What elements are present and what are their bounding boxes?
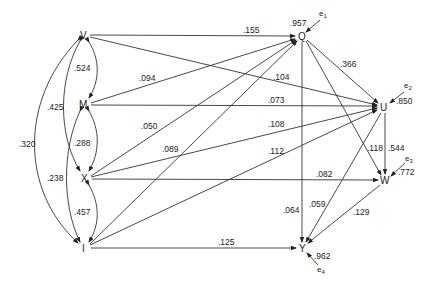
node-x: X: [81, 173, 88, 184]
corr-label-m-x: .288: [74, 138, 91, 148]
path-label-u-y: .059: [309, 199, 326, 209]
path-label-q-y: .064: [283, 205, 300, 215]
path-q-u: [307, 40, 378, 103]
corr-label-v-x: .425: [47, 102, 64, 112]
path-label-i-q: .089: [162, 144, 179, 154]
node-w: W: [380, 175, 390, 186]
corr-label-x-i: .457: [74, 207, 91, 217]
corr-label-v-m: .524: [74, 63, 91, 73]
error-e4-label: e4: [317, 265, 325, 275]
path-i-u: [90, 110, 377, 245]
node-m: M: [79, 99, 87, 110]
error-e1-label: e1: [319, 9, 327, 19]
node-i: I: [82, 243, 85, 254]
corr-v-i: [35, 40, 79, 243]
path-label-v-u: .104: [273, 72, 290, 82]
error-e2-coef: .850: [396, 96, 413, 106]
node-y: Y: [299, 243, 306, 254]
corr-v-x: [64, 41, 81, 171]
path-label-w-y: .129: [353, 207, 370, 217]
path-label-x-u: .108: [268, 119, 285, 129]
node-u: U: [380, 102, 387, 113]
error-e1-coef: .957: [290, 18, 307, 28]
node-v: V: [80, 30, 87, 41]
path-label-m-u: .073: [268, 95, 285, 105]
path-label-x-w: .082: [316, 169, 333, 179]
path-label-x-q: .050: [141, 121, 158, 131]
path-label-q-w: .118: [367, 143, 383, 153]
corr-m-i: [67, 111, 81, 242]
path-i-q: [90, 41, 297, 244]
corr-label-m-i: .238: [47, 173, 64, 183]
path-label-q-u: .366: [340, 59, 357, 69]
path-label-i-y: .125: [218, 237, 235, 247]
correlation-labels: .524 .425 .320 .288 .238 .457: [19, 63, 91, 217]
error-e2-label: e2: [404, 81, 412, 91]
node-q: Q: [298, 31, 306, 42]
error-e4-coef: .962: [314, 251, 331, 261]
error-e1-arrow: [306, 20, 320, 32]
path-m-u: [91, 105, 377, 106]
error-e3-label: e3: [405, 154, 413, 164]
path-x-w: [92, 179, 378, 180]
path-label-u-w: .544: [388, 143, 405, 153]
path-x-u: [91, 108, 377, 177]
path-label-i-u: .112: [268, 146, 284, 156]
path-label-m-q: .094: [139, 73, 156, 83]
path-x-q: [91, 40, 296, 176]
path-m-q: [91, 39, 295, 103]
path-v-u: [90, 37, 377, 105]
path-diagram: e1 .957 e2 .850 e3 .772 e4 .962 V M X I …: [0, 0, 430, 285]
error-e3-coef: .772: [398, 167, 415, 177]
path-v-q: [90, 35, 295, 36]
corr-label-v-i: .320: [19, 139, 36, 149]
path-label-v-q: .155: [243, 25, 260, 35]
